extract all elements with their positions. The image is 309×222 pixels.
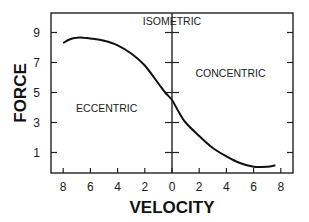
eccentric-label: ECCENTRIC — [76, 102, 138, 114]
y-tick-label: 3 — [33, 116, 40, 130]
x-tick-label: 8 — [277, 180, 284, 194]
y-tick-label: 7 — [33, 56, 40, 70]
y-tick-label: 9 — [33, 26, 40, 40]
x-tick-label: 4 — [114, 180, 121, 194]
y-axis-ticks: 97531 — [33, 26, 293, 160]
isometric-label: ISOMETRIC — [143, 15, 202, 27]
x-tick-label: 8 — [60, 180, 67, 194]
force-velocity-chart: 97531 864202468 ISOMETRICCONCENTRICECCEN… — [0, 0, 309, 222]
x-axis-ticks: 864202468 — [60, 168, 285, 194]
x-tick-label: 4 — [223, 180, 230, 194]
x-tick-label: 6 — [250, 180, 257, 194]
x-tick-label: 2 — [141, 180, 148, 194]
concentric-label: CONCENTRIC — [195, 67, 265, 79]
x-tick-label: 6 — [87, 180, 94, 194]
y-tick-label: 5 — [33, 86, 40, 100]
x-tick-label: 0 — [169, 180, 176, 194]
x-tick-label: 2 — [196, 180, 203, 194]
x-axis-title: VELOCITY — [129, 198, 215, 217]
y-axis-title: FORCE — [11, 63, 30, 123]
y-tick-label: 1 — [33, 146, 40, 160]
